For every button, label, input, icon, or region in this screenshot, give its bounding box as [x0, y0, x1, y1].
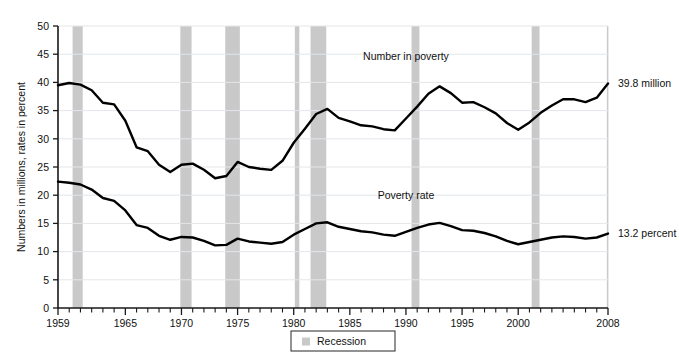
- x-tick-label: 1970: [170, 317, 194, 329]
- x-tick-label: 1985: [338, 317, 362, 329]
- y-tick-label: 40: [37, 76, 49, 88]
- x-tick-label: 1990: [394, 317, 418, 329]
- y-axis-title: Numbers in millions, rates in percent: [15, 82, 27, 252]
- series-label: Poverty rate: [378, 189, 435, 201]
- legend-swatch-recession: [302, 338, 310, 346]
- legend-label-recession: Recession: [317, 335, 366, 347]
- x-tick-label: 1959: [46, 317, 70, 329]
- series-label: Number in poverty: [363, 50, 450, 62]
- x-tick-label: 1980: [282, 317, 306, 329]
- y-axis-title-text: Numbers in millions, rates in percent: [15, 82, 27, 252]
- y-tick-label: 0: [43, 302, 49, 314]
- series-end-label: 13.2 percent: [618, 227, 676, 239]
- series-end-label: 39.8 million: [618, 77, 671, 89]
- y-tick-label: 35: [37, 104, 49, 116]
- y-tick-label: 45: [37, 48, 49, 60]
- y-tick-label: 5: [43, 274, 49, 286]
- y-tick-label: 20: [37, 189, 49, 201]
- x-tick-label: 1995: [450, 317, 474, 329]
- x-tick-label: 2008: [596, 317, 620, 329]
- y-tick-label: 30: [37, 133, 49, 145]
- x-tick-label: 2000: [507, 317, 531, 329]
- y-tick-label: 10: [37, 245, 49, 257]
- poverty-chart-figure: 1959196519701975198019851990199520002008…: [0, 0, 679, 362]
- x-tick-label: 1965: [114, 317, 138, 329]
- y-tick-label: 15: [37, 217, 49, 229]
- chart-svg: 1959196519701975198019851990199520002008…: [0, 0, 679, 362]
- x-tick-label: 1975: [226, 317, 250, 329]
- y-tick-label: 25: [37, 161, 49, 173]
- legend: Recession: [291, 331, 395, 351]
- y-tick-label: 50: [37, 20, 49, 32]
